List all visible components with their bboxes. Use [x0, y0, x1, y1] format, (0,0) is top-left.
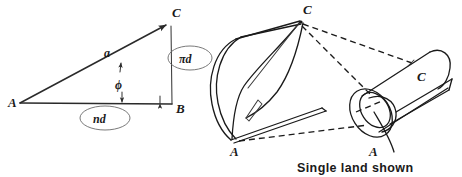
angle-label-phi: ϕ — [115, 78, 122, 92]
side-label-nd: nd — [93, 112, 107, 126]
triangle-base-nd — [20, 103, 172, 104]
cylinder-label-C: C — [417, 69, 426, 84]
caption-label: Single land shown — [297, 161, 414, 175]
vertex-label-B: B — [175, 101, 185, 116]
sheet-label-C: C — [303, 2, 312, 17]
cylinder-label-A: A — [368, 144, 378, 159]
sheet-apex-point — [299, 20, 302, 23]
side-label-pid: πd — [179, 52, 193, 66]
figure-root: A B C a nd πd ϕ — [0, 0, 462, 177]
side-label-a: a — [104, 46, 110, 60]
rifling-development-figure: A B C a nd πd ϕ — [0, 0, 462, 177]
vertex-label-A: A — [7, 95, 17, 110]
sheet-label-A: A — [229, 144, 239, 159]
vertex-label-C: C — [172, 5, 181, 20]
